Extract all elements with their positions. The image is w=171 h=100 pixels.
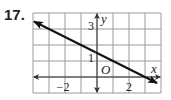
- y-axis-label: y: [99, 11, 107, 26]
- origin-label: O: [101, 62, 111, 77]
- x-axis-label: x: [150, 61, 157, 76]
- y-tick-label: 3: [88, 19, 94, 33]
- y-tick-label: 1: [88, 51, 94, 65]
- coordinate-graph: −2213yxO: [0, 0, 171, 100]
- x-tick-label: −2: [57, 80, 70, 94]
- plotted-line: [34, 22, 157, 84]
- axis-labels: −2213yxO: [57, 11, 157, 94]
- x-tick-label: 2: [126, 80, 132, 94]
